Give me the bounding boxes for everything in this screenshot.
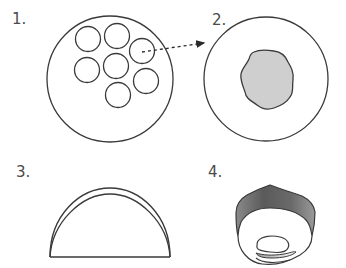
panel-3-half-dome [50, 188, 170, 257]
shaded-rim [236, 185, 315, 236]
dashed-arrow [142, 43, 204, 52]
outer-circle [47, 16, 173, 142]
panel-4-cup-structure [236, 185, 315, 265]
inner-fold-base [256, 258, 290, 262]
small-circle [105, 24, 130, 49]
panel-2-single-cell [204, 17, 328, 141]
panel-1-cell-cluster [47, 16, 173, 142]
diagram-canvas [0, 0, 346, 268]
small-circle [75, 58, 100, 83]
small-circle [106, 83, 131, 108]
outer-arc [50, 188, 170, 257]
gray-blob [241, 50, 293, 109]
small-circle [76, 27, 101, 52]
small-circle [134, 69, 159, 94]
inner-fold-loop [257, 236, 289, 252]
small-circle [104, 54, 129, 79]
inner-arc [50, 194, 170, 257]
